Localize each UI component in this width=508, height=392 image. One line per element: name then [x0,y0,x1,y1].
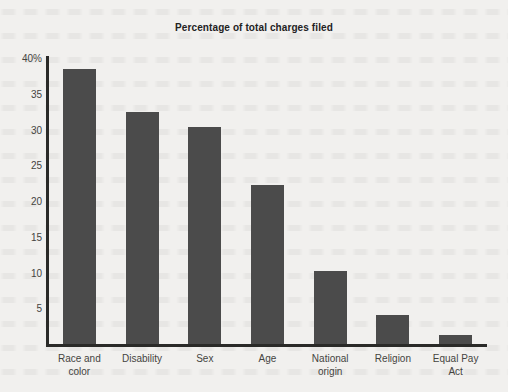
x-axis-tick-label: Sex [173,352,236,365]
x-axis-tick-label-line: Equal Pay [424,352,487,365]
x-axis-tick-label-line: Religion [362,352,425,365]
y-axis-tick-label: 40% [22,53,42,64]
x-axis-tick-label: Disability [111,352,174,365]
x-axis-tick-label-line: Sex [173,352,236,365]
x-axis-tick-label-line: National [299,352,362,365]
bar [439,335,472,344]
bar [314,271,347,344]
y-axis-tick-label: 20 [31,196,42,207]
chart-title: Percentage of total charges filed [0,22,508,33]
x-axis-tick-label-line: Race and [48,352,111,365]
y-axis-tick-label: 30 [31,124,42,135]
x-axis-tick-label-line: Disability [111,352,174,365]
x-axis-tick-label: Nationalorigin [299,352,362,378]
bar [376,315,409,344]
x-axis-tick-label: Religion [362,352,425,365]
bar [251,185,284,344]
bar [63,69,96,344]
x-axis-tick-label-line: color [48,365,111,378]
y-axis-tick-label: 5 [36,303,42,314]
y-axis-tick-label: 15 [31,231,42,242]
y-axis-tick-label: 10 [31,267,42,278]
x-axis-tick-label: Age [236,352,299,365]
y-axis-line [46,56,49,346]
bar [126,112,159,344]
y-axis-tick-label: 25 [31,160,42,171]
y-axis-tick-label: 35 [31,88,42,99]
x-axis-line [46,344,487,347]
x-axis-tick-label-line: origin [299,365,362,378]
x-axis-tick-label-line: Act [424,365,487,378]
bar [188,127,221,344]
x-axis-tick-label: Equal PayAct [424,352,487,378]
bar-chart: Percentage of total charges filed 40%353… [0,0,508,392]
x-axis-tick-label-line: Age [236,352,299,365]
x-axis-tick-label: Race andcolor [48,352,111,378]
